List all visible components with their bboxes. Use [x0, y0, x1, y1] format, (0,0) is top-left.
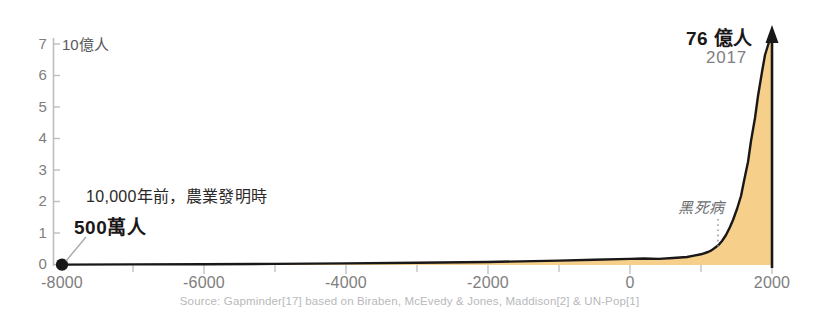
y-tick-label-6: 6 [25, 66, 47, 83]
annotation-today-year: 2017 [706, 48, 747, 68]
x-tick-label--8000: -8000 [22, 274, 102, 292]
population-area-fill [62, 34, 772, 265]
source-note: Source: Gapminder[17] based on Biraben, … [0, 295, 819, 307]
annotation-agriculture-value: 500萬人 [74, 212, 146, 239]
x-tick-label-2000: 2000 [732, 274, 812, 292]
annotation-today-value: 76 億人 [686, 23, 753, 50]
y-tick-label-5: 5 [25, 98, 47, 115]
y-tick-label-4: 4 [25, 129, 47, 146]
y-tick-label-2: 2 [25, 192, 47, 209]
y-tick-label-7: 7 [25, 35, 47, 52]
annotation-black-death: 黑死病 [678, 196, 725, 217]
x-tick-label--6000: -6000 [164, 274, 244, 292]
x-axis-ticks [133, 265, 772, 274]
y-axis-ticks [54, 44, 61, 265]
x-tick-label--4000: -4000 [306, 274, 386, 292]
y-tick-label-3: 3 [25, 161, 47, 178]
y-axis-unit-label: 10億人 [62, 33, 109, 54]
annotation-agriculture-title: 10,000年前，農業發明時 [86, 183, 267, 207]
y-tick-label-1: 1 [25, 224, 47, 241]
agriculture-leader-line [66, 237, 86, 261]
x-tick-label--2000: -2000 [448, 274, 528, 292]
x-tick-label-0: 0 [590, 274, 670, 292]
population-growth-chart: 10億人 7 6 5 4 3 2 1 0 -8000 -6000 -4000 -… [0, 0, 819, 329]
y-tick-label-0: 0 [25, 255, 47, 272]
population-curve [62, 34, 772, 265]
